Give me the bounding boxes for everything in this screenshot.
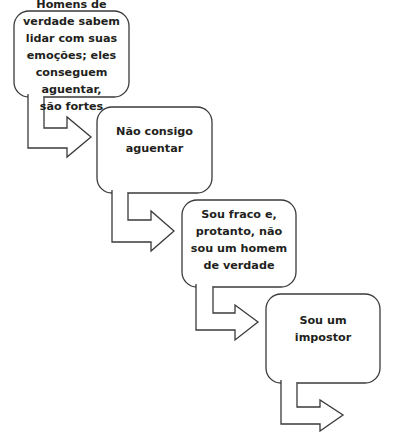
box-1-text: Homens de verdade sabem lidar com suas e…	[14, 13, 129, 97]
arrow-4-icon	[281, 380, 343, 431]
arrow-3-icon	[196, 284, 258, 340]
arrow-2-icon	[112, 190, 174, 251]
box-2-text: Não consigo aguentar	[97, 107, 212, 173]
box-4-text: Sou um impostor	[266, 294, 380, 364]
box-3-text: Sou fraco e, protanto, não sou um homem …	[182, 200, 296, 280]
